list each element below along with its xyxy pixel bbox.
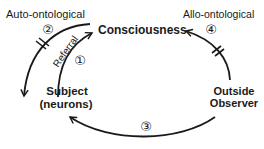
observer-label-line1: Outside <box>214 85 255 97</box>
consciousness-label: Consciousness <box>98 23 187 37</box>
auto-ontological-label: Auto-ontological <box>6 8 85 20</box>
marker-2: ② <box>42 22 54 37</box>
ontology-diagram: Auto-ontological Allo-ontological Consci… <box>0 0 264 149</box>
allo-ontological-label: Allo-ontological <box>183 8 254 20</box>
subject-label-line1: Subject <box>46 85 88 97</box>
subject-label-line2: (neurons) <box>39 98 92 110</box>
marker-1: ① <box>74 53 86 68</box>
observer-label-line2: Observer <box>210 97 259 109</box>
marker-4: ④ <box>205 22 217 37</box>
allo-ontological-arrow <box>186 31 230 80</box>
marker-3: ③ <box>140 119 152 134</box>
